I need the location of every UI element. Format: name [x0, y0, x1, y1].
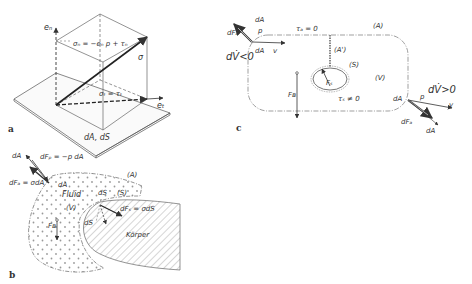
label-dA-surface: dA [58, 181, 67, 189]
label-inflow-v: v [273, 47, 278, 55]
label-region-S: (S) [117, 189, 127, 197]
label-inflow-dA2: dA [255, 47, 264, 55]
label-body: Körper [126, 231, 150, 239]
label-tau-A: τₐ = 0 [296, 25, 318, 33]
label-region-A: (A) [127, 171, 138, 179]
label-region-A-prime: (A') [334, 46, 346, 54]
inflow-v-arrow [252, 42, 285, 43]
outflow-dA-arrow [408, 100, 438, 125]
label-tangential-stress: σₜ = τₜ [99, 90, 122, 98]
label-gravity-b: Fʙ [48, 222, 56, 230]
label-dS-bottom: dS [84, 219, 93, 227]
label-outflow-dA2: dA [426, 127, 435, 135]
label-gravity-c: Fʙ [288, 91, 296, 99]
label-tau-S: τₛ ≠ 0 [338, 95, 360, 103]
figure-canvas: eₙ σₙ = −eₙ p + τₙ σ σₜ = τₜ eₜ dA, dS a… [0, 0, 472, 284]
label-stress: σ [138, 53, 144, 62]
label-volume-c: (V) [375, 74, 386, 82]
label-force-S: Fₛ [326, 79, 333, 87]
label-normal-unit: eₙ [44, 23, 52, 32]
label-inflow-condition: dV̇<0 [226, 50, 254, 62]
label-pressure-force: dFₚ = −p dA [40, 153, 84, 161]
label-outflow-dA: dA [393, 95, 402, 103]
surface-plane [14, 73, 170, 158]
label-region-A-c: (A) [373, 22, 384, 30]
panel-b: dA dFₚ = −p dA dFₐ = σdA dA (A) Fluid (V… [9, 152, 180, 280]
tangent-unit-arrow [147, 98, 163, 99]
label-fluid: Fluid [62, 190, 82, 199]
label-inflow-force: dFₐ [227, 29, 238, 37]
label-outflow-force: dFₐ [401, 118, 412, 126]
label-body-surface-force: dFₛ = σdS [120, 205, 155, 213]
panel-label-c: c [236, 123, 242, 133]
label-inflow-p: p [257, 27, 263, 35]
label-dA-arrow: dA [12, 152, 21, 160]
panel-label-a: a [8, 124, 14, 134]
label-outflow-p: p [419, 93, 425, 101]
label-surface-force: dFₐ = σdA [9, 179, 44, 187]
label-tangent-unit: eₜ [157, 101, 165, 110]
label-outflow-condition: dV̇>0 [428, 83, 456, 95]
panel-a: eₙ σₙ = −eₙ p + τₙ σ σₜ = τₜ eₜ dA, dS a [8, 14, 170, 158]
panel-label-b: b [9, 270, 15, 280]
label-volume: (V) [66, 204, 77, 212]
panel-c: dA dFₐ p dA v dV̇<0 τₐ = 0 (A) (A') (S) … [226, 16, 456, 135]
label-normal-stress: σₙ = −eₙ p + τₙ [73, 40, 128, 48]
label-inflow-dA: dA [255, 16, 264, 24]
label-region-S-c: (S) [349, 61, 359, 69]
label-area: dA, dS [84, 133, 110, 142]
label-dS-top: dS [98, 189, 107, 197]
control-volume-boundary [248, 35, 408, 111]
label-outflow-v: v [449, 101, 454, 109]
